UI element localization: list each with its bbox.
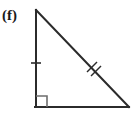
hypotenuse-line xyxy=(36,10,129,107)
figure-container: (f) xyxy=(0,0,136,114)
right-triangle-diagram xyxy=(0,0,136,114)
right-angle-marker-icon xyxy=(36,96,47,107)
triangle-outline xyxy=(35,10,129,107)
